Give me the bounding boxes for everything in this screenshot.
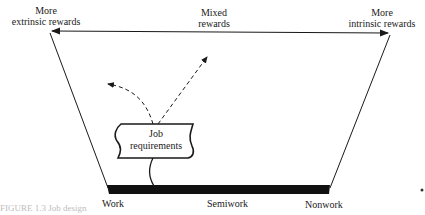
work-continuum-bar xyxy=(107,185,330,194)
job-requirements-label: Job requirements xyxy=(118,128,194,152)
box-line-1: Job xyxy=(118,128,194,140)
label-line: More xyxy=(342,7,422,18)
label-work: Work xyxy=(102,199,124,209)
label-line: Mixed xyxy=(190,7,238,18)
label-line: rewards xyxy=(190,18,238,29)
label-mixed-rewards: Mixed rewards xyxy=(190,7,238,29)
box-line-2: requirements xyxy=(118,140,194,152)
label-line: intrinsic rewards xyxy=(342,18,422,29)
figure-caption: FIGURE 1.3 Job design xyxy=(0,203,87,213)
label-semiwork: Semiwork xyxy=(207,199,248,209)
dashed-arrow-right xyxy=(158,57,207,124)
label-more-intrinsic-rewards: More intrinsic rewards xyxy=(342,7,422,29)
left-side-line xyxy=(50,33,108,188)
label-line: extrinsic rewards xyxy=(6,16,86,27)
diagram-canvas xyxy=(0,0,425,215)
label-more-extrinsic-rewards: More extrinsic rewards xyxy=(6,5,86,27)
dashed-arrow-left xyxy=(108,84,153,124)
right-side-line xyxy=(330,35,390,188)
continuum-arrow xyxy=(52,31,388,33)
speck-mark xyxy=(421,189,424,192)
label-nonwork: Nonwork xyxy=(305,200,343,210)
label-line: More xyxy=(6,5,86,16)
box-connector-line xyxy=(150,158,154,186)
